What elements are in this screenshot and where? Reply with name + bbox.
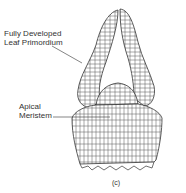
stem-base [72, 104, 162, 164]
label-line-1: Fully Developed [4, 29, 63, 38]
leaf-primordium-leader [52, 46, 82, 63]
apical-meristem-label: Apical Meristem [19, 102, 52, 120]
apical-dome [96, 83, 138, 105]
label-line-2: Meristem [19, 111, 52, 120]
label-line-2: Leaf Primordium [4, 38, 63, 47]
leaf-primordium-label: Fully Developed Leaf Primordium [4, 29, 63, 47]
panel-label: (c) [112, 178, 120, 187]
label-line-1: Apical [19, 102, 52, 111]
